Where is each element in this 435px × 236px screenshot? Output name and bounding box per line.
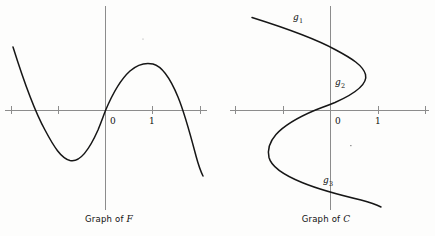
panel-graph-of-f: 0 1 Graph of F [0,0,218,236]
curve-label-g1-sub: 1 [299,17,303,25]
figure-container: 0 1 Graph of F 0 1 [0,0,435,236]
caption-symbol-c: C [343,214,350,224]
caption-graph-of-c: Graph of C [217,214,435,224]
caption-prefix-c: Graph of [302,214,341,224]
curve-label-g3-sub: 3 [329,180,333,188]
caption-graph-of-f: Graph of F [0,214,218,224]
x-label-one-c: 1 [375,116,381,126]
curve-label-g1: g 1 [293,12,303,25]
caption-prefix-f: Graph of [85,214,124,224]
print-speck-f [142,38,143,39]
curve-label-g3: g 3 [323,175,333,188]
caption-symbol-f: F [127,214,133,224]
curve-label-g2-sub: 2 [341,82,345,90]
curve-f [13,47,203,176]
curve-c [252,18,381,208]
plot-graph-of-c: 0 1 g 1 g 2 g 3 [217,0,435,210]
curve-label-g2: g 2 [335,77,345,90]
x-label-origin-f: 0 [110,116,116,126]
print-speck-c [350,145,352,146]
x-label-origin-c: 0 [335,116,341,126]
panel-graph-of-c: 0 1 g 1 g 2 g 3 Graph of C [217,0,435,236]
x-label-one-f: 1 [149,116,155,126]
plot-graph-of-f: 0 1 [0,0,218,210]
